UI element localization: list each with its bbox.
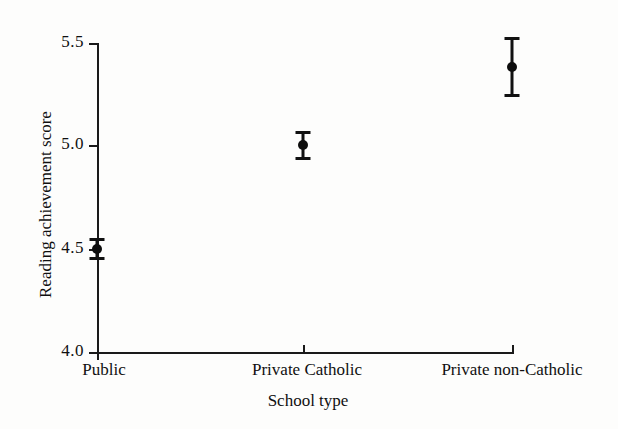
- error-bar-cap-top-public: [90, 238, 105, 241]
- error-bar-cap-top-private-catholic: [296, 131, 311, 134]
- chart-figure: 5.5 5.0 4.5 4.0 Public Private Catholic …: [0, 0, 618, 429]
- x-tick-label-private-catholic: Private Catholic: [252, 360, 362, 380]
- error-bar-cap-bottom-private-catholic: [296, 157, 311, 160]
- x-tick-mark-private-non-catholic: [512, 345, 514, 354]
- y-tick-label-5-5: 5.5: [44, 32, 84, 52]
- x-tick-label-private-non-catholic: Private non-Catholic: [441, 360, 582, 380]
- y-tick-mark-5-5: [89, 43, 98, 45]
- x-axis-title: School type: [268, 391, 349, 411]
- y-axis-title: Reading achievement score: [36, 111, 56, 298]
- x-tick-mark-private-catholic: [303, 345, 305, 354]
- x-axis-spine: [97, 352, 514, 354]
- data-point-private-non-catholic: [507, 62, 517, 72]
- data-point-private-catholic: [298, 140, 308, 150]
- error-bar-cap-bottom-private-non-catholic: [505, 94, 520, 97]
- x-tick-mark-public: [97, 352, 99, 360]
- error-bar-cap-top-private-non-catholic: [505, 37, 520, 40]
- y-tick-mark-5-0: [89, 145, 98, 147]
- error-bar-cap-bottom-public: [90, 257, 105, 260]
- data-point-public: [92, 244, 102, 254]
- x-tick-label-public: Public: [82, 360, 125, 380]
- y-tick-label-4-0: 4.0: [44, 341, 84, 361]
- y-axis-spine: [97, 43, 99, 354]
